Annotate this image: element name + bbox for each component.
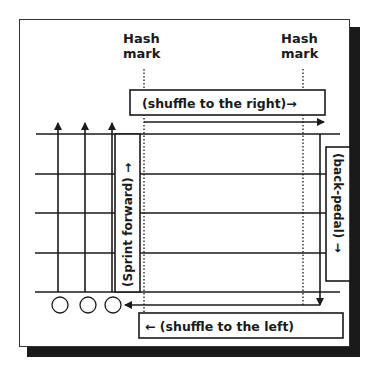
- svg-text:Hash: Hash: [281, 31, 318, 46]
- svg-text:Hash: Hash: [123, 31, 160, 46]
- sprint-forward-label: (Sprint forward) →: [121, 163, 135, 287]
- back-pedal-label: (back-pedal) →: [331, 153, 345, 253]
- player-icon: [105, 297, 121, 313]
- shuffle-left-box: ← (shuffle to the left): [139, 313, 343, 338]
- back-pedal-box: (back-pedal) →: [326, 147, 350, 281]
- yard-lines: [35, 134, 340, 292]
- sprint-forward-box: (Sprint forward) →: [115, 134, 140, 292]
- shuffle-right-label: (shuffle to the right)→: [142, 96, 297, 111]
- sprint-arrows: [58, 123, 112, 292]
- svg-text:mark: mark: [123, 46, 161, 61]
- hash-mark-left-label: Hash mark: [123, 31, 161, 61]
- drill-diagram: Hash mark Hash mark (Sprint forward) → (…: [0, 0, 390, 371]
- svg-text:mark: mark: [281, 46, 319, 61]
- player-icon: [80, 297, 96, 313]
- hash-mark-right-label: Hash mark: [281, 31, 319, 61]
- shuffle-left-label: ← (shuffle to the left): [145, 319, 294, 334]
- players: [52, 297, 121, 313]
- player-icon: [52, 297, 68, 313]
- shuffle-right-box: (shuffle to the right)→: [130, 90, 325, 115]
